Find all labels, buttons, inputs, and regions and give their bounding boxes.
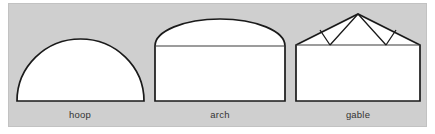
- hoop-label: hoop: [69, 109, 91, 120]
- shape-arch: arch: [155, 19, 285, 120]
- shape-hoop: hoop: [17, 39, 144, 120]
- figure-root: hoop arch gable: [0, 0, 435, 134]
- hoop-outline: [17, 39, 144, 101]
- shape-gable: gable: [296, 14, 420, 120]
- gable-label: gable: [346, 109, 370, 120]
- arch-label: arch: [210, 109, 229, 120]
- arch-outline: [155, 19, 285, 101]
- gable-outline: [296, 14, 420, 101]
- structure-styles-diagram: hoop arch gable: [0, 0, 435, 134]
